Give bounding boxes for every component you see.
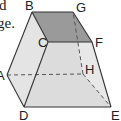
vertex-label-f: F xyxy=(95,35,103,50)
vertex-label-a: A xyxy=(0,68,5,83)
vertex-label-b: B xyxy=(25,0,34,13)
vertex-label-g: G xyxy=(76,0,86,15)
vertex-label-h: H xyxy=(85,62,94,77)
vertex-label-d: D xyxy=(19,108,28,121)
vertex-label-c: C xyxy=(38,35,47,50)
solid-diagram: B G C F A H D E xyxy=(0,0,121,121)
vertex-label-e: E xyxy=(111,108,120,121)
